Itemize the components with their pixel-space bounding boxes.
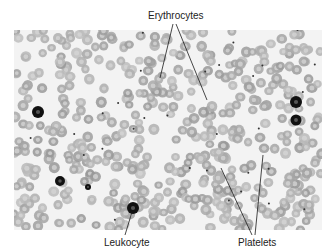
erythrocyte	[121, 195, 131, 204]
erythrocyte	[299, 133, 310, 143]
platelet	[240, 191, 242, 193]
erythrocyte	[304, 200, 315, 210]
platelet	[166, 115, 168, 117]
erythrocyte	[301, 46, 311, 56]
erythrocyte	[186, 30, 197, 40]
erythrocyte	[229, 216, 239, 226]
erythrocyte	[22, 82, 31, 90]
erythrocyte	[223, 211, 231, 219]
erythrocyte	[109, 179, 120, 190]
platelet	[252, 75, 254, 77]
erythrocyte	[117, 57, 126, 66]
erythrocyte	[87, 195, 96, 204]
erythrocyte	[259, 102, 269, 111]
erythrocyte	[283, 130, 292, 138]
erythrocyte	[202, 161, 212, 170]
platelet	[268, 202, 270, 204]
erythrocyte	[165, 215, 175, 224]
erythrocyte	[125, 101, 133, 108]
leukocyte-label: Leukocyte	[104, 238, 150, 248]
platelet	[143, 117, 145, 119]
platelet	[204, 70, 206, 72]
erythrocyte	[138, 76, 148, 86]
erythrocyte	[60, 99, 69, 107]
erythrocyte	[24, 121, 33, 130]
erythrocyte	[104, 221, 115, 230]
erythrocyte	[107, 117, 117, 127]
erythrocyte	[124, 69, 135, 79]
erythrocyte	[310, 122, 319, 131]
erythrocyte	[264, 178, 274, 187]
erythrocyte	[286, 189, 295, 198]
erythrocyte	[225, 108, 236, 117]
erythrocyte	[76, 106, 86, 116]
platelet	[268, 168, 270, 170]
platelet	[261, 65, 263, 67]
erythrocyte	[102, 157, 111, 166]
erythrocyte	[14, 34, 24, 43]
erythrocyte	[148, 124, 159, 135]
erythrocyte	[302, 167, 313, 178]
erythrocyte	[256, 78, 266, 88]
erythrocyte	[289, 30, 300, 40]
erythrocyte	[223, 186, 233, 195]
erythrocyte	[213, 173, 224, 184]
erythrocyte	[134, 135, 145, 145]
erythrocyte	[197, 77, 208, 87]
erythrocyte	[150, 221, 160, 230]
erythrocyte	[107, 34, 116, 42]
platelet	[73, 133, 75, 135]
erythrocyte	[187, 104, 196, 113]
platelet	[228, 200, 230, 202]
erythrocyte	[259, 58, 269, 67]
erythrocyte	[175, 213, 186, 224]
erythrocyte	[123, 89, 132, 98]
erythrocyte	[198, 30, 208, 38]
erythrocyte	[316, 169, 322, 178]
erythrocyte	[38, 203, 47, 212]
erythrocyte	[269, 211, 280, 221]
leukocyte-nucleus-highlight	[36, 110, 40, 114]
erythrocyte	[33, 148, 42, 157]
erythrocyte	[213, 148, 224, 157]
erythrocyte	[232, 100, 241, 109]
platelet	[216, 133, 218, 135]
erythrocyte	[160, 36, 170, 45]
erythrocyte	[120, 120, 130, 130]
erythrocyte	[178, 126, 188, 134]
erythrocyte	[36, 121, 45, 130]
erythrocyte	[206, 56, 216, 66]
erythrocyte	[244, 138, 252, 147]
erythrocyte	[255, 133, 266, 143]
erythrocyte	[198, 178, 208, 188]
erythrocyte	[151, 40, 159, 48]
platelet	[206, 170, 208, 172]
erythrocyte	[205, 140, 214, 148]
erythrocyte	[131, 110, 140, 119]
erythrocyte	[131, 150, 140, 159]
erythrocyte	[76, 57, 87, 68]
erythrocyte	[142, 152, 152, 161]
leukocyte-nucleus-highlight	[58, 179, 62, 183]
erythrocyte	[33, 136, 43, 144]
erythrocyte	[165, 177, 174, 185]
platelet	[302, 91, 304, 93]
erythrocyte	[48, 187, 59, 197]
erythrocyte	[292, 210, 301, 218]
erythrocyte	[136, 89, 145, 97]
erythrocyte	[91, 42, 100, 51]
erythrocyte	[39, 213, 49, 223]
erythrocyte	[87, 143, 96, 152]
erythrocyte	[266, 39, 276, 48]
erythrocyte	[310, 158, 320, 167]
platelet	[102, 112, 104, 114]
erythrocyte	[147, 93, 156, 102]
erythrocyte	[136, 31, 146, 40]
erythrocyte	[316, 47, 322, 56]
erythrocyte	[39, 49, 47, 57]
leukocyte-nucleus-highlight	[294, 118, 298, 122]
erythrocyte	[167, 76, 177, 86]
blood-smear-micrograph	[14, 30, 322, 230]
platelets-label: Platelets	[238, 238, 276, 248]
erythrocyte	[24, 94, 33, 103]
